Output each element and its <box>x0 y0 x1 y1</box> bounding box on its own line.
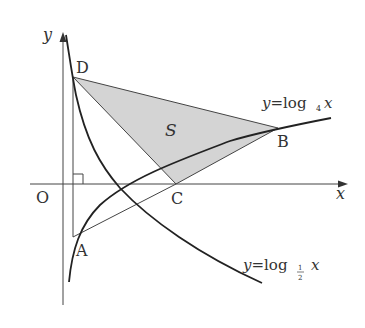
svg-text:y=log: y=log <box>261 94 307 112</box>
point-d-label: D <box>76 58 89 77</box>
x-axis-label: x <box>336 184 345 203</box>
curve-log4-label: y=log 4 x <box>261 94 333 113</box>
y-axis-label: y <box>42 25 53 44</box>
point-a-label: A <box>75 241 88 260</box>
point-b-label: B <box>277 132 289 151</box>
log4-base: 4 <box>316 104 321 113</box>
origin-label: O <box>36 188 49 207</box>
log4-prefix: =log <box>270 94 306 112</box>
svg-text:x: x <box>311 256 320 274</box>
log-diagram: y x O D B C A S y=log 4 x y=log 1 2 x <box>0 0 365 328</box>
log-half-base-den: 2 <box>298 274 302 282</box>
curve-log-half-label: y=log 1 2 x <box>242 256 320 282</box>
point-c-label: C <box>171 189 183 208</box>
svg-text:x: x <box>324 94 333 112</box>
log-half-base-num: 1 <box>298 264 302 272</box>
right-angle-mark <box>73 174 83 184</box>
svg-text:y=log: y=log <box>242 256 288 274</box>
region-s-label: S <box>165 120 177 140</box>
